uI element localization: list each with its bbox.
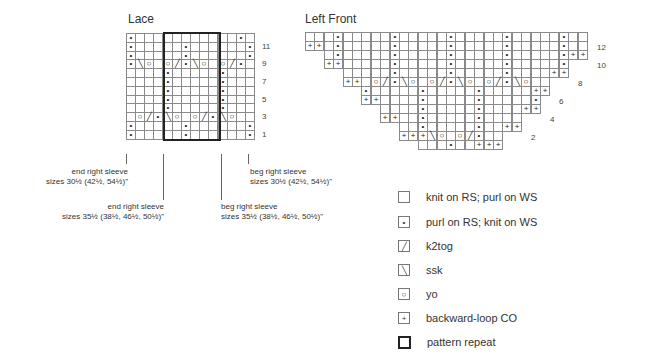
chart-cell: + [559,68,569,78]
chart-cell: + [314,41,324,51]
note-beg-right-sleeve-1: beg right sleeve sizes 30½ (42½, 54½)" [250,167,332,187]
row-number: 9 [262,59,266,68]
chart-cell: + [540,86,550,96]
circle-icon: ○ [398,288,410,300]
chart-cell: • [245,130,255,140]
chart-cell: + [493,140,503,150]
row-number: 2 [531,133,535,142]
bold-square-icon [398,336,411,349]
legend-item-backward-loop-co: + backward-loop CO [398,310,517,326]
legend-item-purl: • purl on RS; knit on WS [398,214,537,230]
row-number: 10 [597,61,606,70]
pattern-repeat-box [163,32,221,141]
chart-cell: + [578,50,588,60]
dot-icon: • [398,216,410,228]
chart-cell: + [361,95,371,105]
legend-item-k2tog: ╱ k2tog [398,238,453,254]
row-number: 4 [550,115,554,124]
row-number: 5 [262,95,266,104]
chart-cell [427,140,437,150]
left-slant-icon: ╲ [398,264,410,276]
chart-cell: + [333,59,343,69]
chart-cell [153,130,163,140]
chart-cell: + [549,68,559,78]
note-beg-right-sleeve-2: beg right sleeve sizes 35½ (38½, 46½, 50… [221,202,323,222]
chart-cell: + [568,50,578,60]
legend-item-ssk: ╲ ssk [398,262,443,278]
row-number: 7 [262,77,266,86]
plus-icon: + [398,312,410,324]
legend-item-pattern-repeat: pattern repeat [398,334,496,350]
row-number: 3 [262,112,266,121]
chart-cell: + [521,104,531,114]
row-number: 6 [559,97,563,106]
left-front-title: Left Front [305,12,356,26]
chart-cell: + [408,131,418,141]
note-end-right-sleeve-1: end right sleeve sizes 30½ (42½, 54½)" [46,167,128,187]
row-number: 8 [578,79,582,88]
chart-cell: + [502,122,512,132]
chart-cell: + [512,122,522,132]
row-number: 1 [262,130,266,139]
row-number: 12 [597,43,606,52]
chart-cell: + [474,140,484,150]
chart-cell: + [380,113,390,123]
tick-beg-right-sleeve-2 [221,154,222,200]
legend-item-yo: ○ yo [398,286,438,302]
lace-title: Lace [128,12,154,26]
empty-square-icon [398,191,410,203]
chart-cell: + [531,104,541,114]
chart-cell [455,140,465,150]
note-end-right-sleeve-2: end right sleeve sizes 35½ (38½, 46½, 50… [62,202,164,222]
right-slant-icon: ╱ [398,240,410,252]
tick-beg-right-sleeve-1 [248,154,249,164]
row-number: 11 [262,42,270,51]
legend-item-knit: knit on RS; purl on WS [398,189,537,205]
tick-end-right-sleeve-2 [163,154,164,200]
tick-end-right-sleeve-1 [126,154,127,164]
